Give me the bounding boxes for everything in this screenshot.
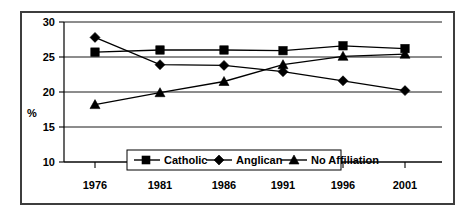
datapoint-anglican-1986 (219, 60, 229, 70)
y-tick-label-30: 30 (43, 16, 55, 28)
line-chart: 30 25 20 15 10 % 1976 1981 1986 1991 199… (0, 0, 473, 219)
series-line-no-affiliation (95, 54, 405, 104)
legend-label-anglican: Anglican (236, 154, 283, 166)
y-axis-title: % (27, 107, 37, 119)
x-tick-label-1986: 1986 (212, 179, 236, 191)
series-line-catholic (95, 46, 405, 52)
chart-legend: Catholic Anglican No Affiliation (127, 150, 379, 170)
gridlines (64, 22, 442, 162)
datapoint-catholic-1976 (91, 48, 99, 56)
datapoint-catholic-1981 (156, 46, 164, 54)
legend-marker-square (142, 156, 150, 164)
datapoint-catholic-1996 (339, 42, 347, 50)
x-tick-label-2001: 2001 (393, 179, 417, 191)
datapoint-catholic-1986 (220, 46, 228, 54)
datapoint-catholic-1991 (279, 47, 287, 55)
series-layer (90, 32, 410, 108)
series-anglican (90, 32, 410, 95)
y-tick-label-20: 20 (43, 86, 55, 98)
chart-plot-area: 30 25 20 15 10 % 1976 1981 1986 1991 199… (0, 0, 473, 219)
y-tick-label-10: 10 (43, 156, 55, 168)
y-axis-tickmarks (59, 22, 64, 162)
y-tick-label-15: 15 (43, 121, 55, 133)
y-tick-label-25: 25 (43, 51, 55, 63)
x-tick-label-1976: 1976 (83, 179, 107, 191)
legend-label-catholic: Catholic (164, 154, 207, 166)
series-no-affiliation (90, 49, 410, 108)
series-catholic (91, 42, 409, 57)
x-tick-label-1981: 1981 (148, 179, 172, 191)
series-line-anglican (95, 37, 405, 90)
datapoint-anglican-1976 (90, 32, 100, 42)
legend-label-no-affiliation: No Affiliation (311, 154, 379, 166)
x-tick-label-1991: 1991 (271, 179, 295, 191)
datapoint-anglican-1981 (155, 60, 165, 70)
datapoint-anglican-1996 (338, 76, 348, 86)
datapoint-anglican-2001 (400, 86, 410, 96)
x-tick-label-1996: 1996 (331, 179, 355, 191)
